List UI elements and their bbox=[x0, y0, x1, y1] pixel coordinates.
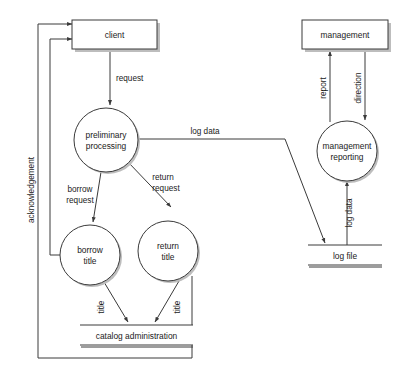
flow-title-borrow-label: title bbox=[97, 300, 106, 313]
process-borrow-title-label-line1: borrow bbox=[77, 245, 104, 255]
process-borrow-title[interactable]: borrow title bbox=[60, 225, 122, 287]
flow-return-request-label-line1: return bbox=[152, 173, 174, 182]
flow-title-return-label: title bbox=[173, 300, 182, 313]
flow-log-data-out-label: log data bbox=[190, 127, 220, 136]
flow-acknowledgement-borrow bbox=[50, 39, 72, 255]
datastore-log-file-label: log file bbox=[333, 251, 358, 261]
process-preliminary-processing-label-line1: preliminary bbox=[86, 130, 128, 140]
data-flow-diagram-canvas: client management preliminary processing… bbox=[0, 0, 410, 381]
datastore-catalog-administration[interactable]: catalog administration bbox=[80, 325, 193, 347]
external-entity-client[interactable]: client bbox=[72, 20, 160, 52]
flow-return-request-label-line2: request bbox=[152, 184, 180, 193]
flow-direction-label: direction bbox=[354, 72, 363, 103]
process-preliminary-processing-label-line2: processing bbox=[86, 141, 127, 151]
process-return-title[interactable]: return title bbox=[138, 221, 200, 283]
dfd-svg: client management preliminary processing… bbox=[0, 0, 410, 381]
process-management-reporting-label-line1: management bbox=[323, 141, 373, 151]
process-management-reporting-label-line2: reporting bbox=[330, 152, 363, 162]
flow-request-label: request bbox=[116, 74, 144, 83]
flow-log-data-in-label: log data bbox=[345, 198, 354, 228]
external-entity-management[interactable]: management bbox=[302, 20, 391, 52]
flow-title-borrow bbox=[104, 282, 128, 322]
flow-borrow-request-label-line2: request bbox=[66, 196, 94, 205]
process-management-reporting[interactable]: management reporting bbox=[317, 121, 379, 183]
process-return-title-label-line2: title bbox=[161, 252, 174, 262]
flow-borrow-request-label-line1: borrow bbox=[67, 185, 92, 194]
process-preliminary-processing[interactable]: preliminary processing bbox=[74, 108, 140, 174]
flow-report-label: report bbox=[319, 77, 328, 99]
external-entity-client-label: client bbox=[105, 30, 125, 40]
datastore-log-file[interactable]: log file bbox=[308, 245, 382, 267]
external-entity-management-label: management bbox=[321, 30, 371, 40]
datastore-catalog-administration-label: catalog administration bbox=[96, 331, 178, 341]
process-return-title-label-line1: return bbox=[157, 241, 179, 251]
process-borrow-title-label-line2: title bbox=[83, 256, 96, 266]
flow-acknowledgement-label: acknowledgement bbox=[27, 156, 36, 223]
flow-borrow-request bbox=[93, 172, 101, 222]
